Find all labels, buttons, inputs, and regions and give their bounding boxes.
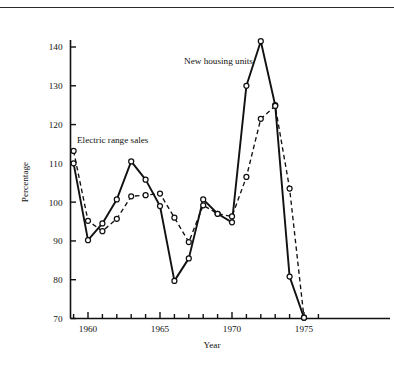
data-series-group <box>71 39 306 321</box>
line-chart: 708090100110120130140 1960196519701975 E… <box>0 0 394 368</box>
y-tick-label: 120 <box>49 120 63 130</box>
y-axis-title: Percentage <box>20 162 30 202</box>
x-tick-label: 1960 <box>79 324 98 334</box>
data-point-marker <box>186 256 191 261</box>
y-tick-label: 100 <box>49 198 63 208</box>
series-line-1 <box>74 41 304 318</box>
data-point-marker <box>158 191 163 196</box>
data-point-marker <box>86 238 91 243</box>
x-axis-title: Year <box>204 340 221 350</box>
y-axis: 708090100110120130140 <box>49 40 76 324</box>
y-tick-label: 90 <box>53 236 63 246</box>
x-tick-label: 1975 <box>295 324 314 334</box>
data-point-marker <box>172 278 177 283</box>
data-point-marker <box>114 197 119 202</box>
data-point-marker <box>244 83 249 88</box>
data-point-marker <box>172 215 177 220</box>
data-point-marker <box>215 211 220 216</box>
data-point-marker <box>100 229 105 234</box>
y-tick-label: 130 <box>49 81 63 91</box>
data-point-marker <box>287 186 292 191</box>
data-point-marker <box>143 177 148 182</box>
data-point-marker <box>100 221 105 226</box>
y-tick-label: 140 <box>49 42 63 52</box>
data-point-marker <box>244 174 249 179</box>
data-point-marker <box>143 193 148 198</box>
data-point-marker <box>71 148 76 153</box>
x-tick-label: 1970 <box>223 324 242 334</box>
annotation-electric-range-sales: Electric range sales <box>77 135 149 145</box>
x-tick-label: 1965 <box>151 324 170 334</box>
data-point-marker <box>258 116 263 121</box>
annotation-new-housing-units: New housing units <box>184 56 253 66</box>
data-point-marker <box>158 204 163 209</box>
data-point-marker <box>273 103 278 108</box>
data-point-marker <box>258 39 263 44</box>
y-tick-label: 70 <box>53 314 63 324</box>
y-tick-label: 80 <box>53 275 63 285</box>
data-point-marker <box>129 159 134 164</box>
data-point-marker <box>129 194 134 199</box>
data-point-marker <box>230 214 235 219</box>
y-tick-label: 110 <box>49 159 63 169</box>
data-point-marker <box>302 315 307 320</box>
data-point-marker <box>201 197 206 202</box>
series-annotations: Electric range salesNew housing units <box>77 56 253 145</box>
x-axis: 1960196519701975 <box>71 312 391 334</box>
data-point-marker <box>86 218 91 223</box>
data-point-marker <box>287 274 292 279</box>
data-point-marker <box>230 220 235 225</box>
figure-root: Chart 2. 708090100110120130140 196019651… <box>0 0 394 368</box>
data-point-marker <box>114 216 119 221</box>
data-point-marker <box>201 203 206 208</box>
data-point-marker <box>186 240 191 245</box>
